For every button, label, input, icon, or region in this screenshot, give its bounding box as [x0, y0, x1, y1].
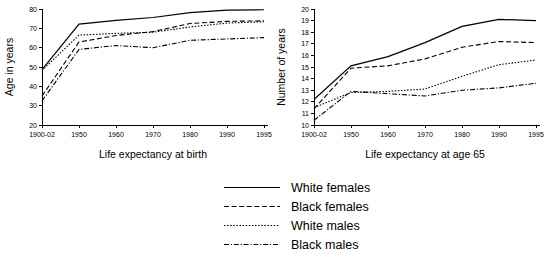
y-axis-title: Age in years — [3, 38, 15, 96]
legend-line-swatch — [224, 187, 280, 188]
x-tick-label: 1970 — [145, 131, 161, 138]
x-tick-label: 1990 — [219, 131, 235, 138]
legend-item-black-males: Black males — [224, 235, 370, 254]
y-tick-label: 16 — [301, 52, 309, 59]
y-tick-label: 30 — [29, 102, 37, 109]
legend-line-swatch — [224, 225, 280, 226]
life-expectancy-figure: 203040506070801900-021950196019701980199… — [0, 0, 544, 261]
x-tick-label: 1950 — [343, 131, 359, 138]
y-tick-label: 12 — [301, 98, 309, 105]
x-tick-label: 1900-02 — [29, 131, 55, 138]
chart-panel-life-expectancy-at-age-65: 10111213141516171819201900-0219501960197… — [272, 0, 544, 170]
legend-line-swatch — [224, 244, 280, 245]
legend-label: White females — [291, 181, 370, 195]
y-tick-label: 70 — [29, 25, 37, 32]
x-tick-label: 1980 — [182, 131, 198, 138]
plot-area-right: 10111213141516171819201900-0219501960197… — [275, 6, 544, 160]
x-tick-label: 1990 — [491, 131, 507, 138]
x-tick-label: 1960 — [380, 131, 396, 138]
y-tick-label: 10 — [301, 122, 309, 129]
y-tick-label: 15 — [301, 64, 309, 71]
series-line-white-females — [42, 10, 264, 70]
chart-legend: White femalesBlack femalesWhite malesBla… — [0, 178, 544, 261]
x-tick-label: 1970 — [417, 131, 433, 138]
x-tick-label: 1960 — [108, 131, 124, 138]
y-tick-label: 19 — [301, 17, 309, 24]
y-tick-label: 11 — [302, 110, 309, 117]
legend-label: Black females — [291, 200, 369, 214]
legend-label: White males — [291, 219, 360, 233]
y-tick-label: 20 — [29, 122, 37, 129]
x-tick-label: 1980 — [454, 131, 470, 138]
legend-item-white-females: White females — [224, 178, 370, 197]
chart-panel-life-expectancy-at-birth: 203040506070801900-021950196019701980199… — [0, 0, 272, 170]
x-tick-label: 1950 — [71, 131, 87, 138]
legend-item-white-males: White males — [224, 216, 370, 235]
series-line-black-males — [314, 83, 536, 120]
y-tick-label: 14 — [301, 75, 309, 82]
plot-area-left: 203040506070801900-021950196019701980199… — [3, 6, 272, 160]
x-tick-label: 1900-02 — [301, 131, 327, 138]
legend-item-black-females: Black females — [224, 197, 370, 216]
x-tick-label: 1995 — [528, 131, 544, 138]
legend-label: Black males — [291, 238, 358, 252]
x-tick-label: 1995 — [256, 131, 272, 138]
chart-svg-left: 203040506070801900-021950196019701980199… — [0, 0, 272, 170]
y-tick-label: 80 — [29, 6, 37, 13]
series-line-black-females — [314, 41, 536, 108]
y-tick-label: 40 — [29, 83, 37, 90]
y-tick-label: 17 — [301, 40, 309, 47]
y-tick-label: 18 — [301, 29, 309, 36]
y-tick-label: 20 — [301, 6, 309, 13]
x-axis-title: Life expectancy at age 65 — [365, 148, 485, 160]
x-axis-title: Life expectancy at birth — [99, 148, 207, 160]
legend-line-swatch — [224, 206, 280, 207]
chart-svg-right: 10111213141516171819201900-0219501960197… — [272, 0, 544, 170]
y-tick-label: 13 — [301, 87, 309, 94]
y-tick-label: 60 — [29, 44, 37, 51]
y-tick-label: 50 — [29, 64, 37, 71]
series-line-white-males — [314, 60, 536, 108]
series-line-black-males — [42, 38, 264, 101]
y-axis-title: Number of years — [275, 28, 287, 106]
